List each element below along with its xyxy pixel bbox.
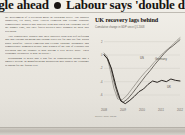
chart-x-tick-label: 2008 [101, 109, 107, 112]
article-paragraph: the government of a recession made in Do… [5, 16, 89, 33]
chart-y-tick-label: -4 [100, 80, 103, 84]
line-chart-svg: 20-2-4-6GermanyUSUK [95, 33, 181, 107]
article-paragraph: "We consistently warned that their auste… [5, 35, 89, 56]
article-body-column: the government of a recession made in Do… [5, 16, 89, 122]
chart-y-tick-label: -6 [100, 93, 103, 97]
article-paragraph: Responding to news that a big fall in co… [5, 57, 89, 67]
chart-y-tick-label: 2 [101, 40, 103, 44]
chart-series-line [104, 55, 180, 104]
chart-series-label: US [140, 56, 144, 60]
bullet-dot-icon [54, 2, 61, 9]
newspaper-page-scan: ggle ahead Labour says 'double dip' made… [0, 0, 185, 135]
headline-text-start: ggle ahead [0, 0, 49, 12]
headline-text-end: Labour says 'double dip' made [66, 0, 185, 12]
article-headline: ggle ahead Labour says 'double dip' made [0, 0, 185, 12]
chart-plot-area: 20-2-4-6GermanyUSUK [95, 33, 181, 107]
chart-source-note: Source: ONS, OECD [95, 115, 181, 118]
page-bottom-edge [0, 127, 185, 135]
chart-y-tick-label: -2 [100, 66, 103, 70]
chart-x-tick-label: 2010 [139, 109, 145, 112]
chart-x-tick-label: 2012 [177, 109, 183, 112]
chart-series-label: Germany [155, 57, 167, 61]
chart-x-tick-label: 2011 [158, 109, 164, 112]
chart-x-axis: 20082009201020112012 [95, 109, 181, 114]
chart-y-tick-label: 0 [101, 53, 103, 57]
chart-subtitle: Cumulative change in GDP since Q1 2008 [95, 26, 181, 29]
chart-title: UK recovery lags behind [95, 16, 181, 23]
chart-series-label: UK [167, 85, 171, 89]
chart-panel: UK recovery lags behind Cumulative chang… [95, 16, 181, 122]
headline-divider [0, 12, 185, 13]
chart-x-tick-label: 2009 [120, 109, 126, 112]
